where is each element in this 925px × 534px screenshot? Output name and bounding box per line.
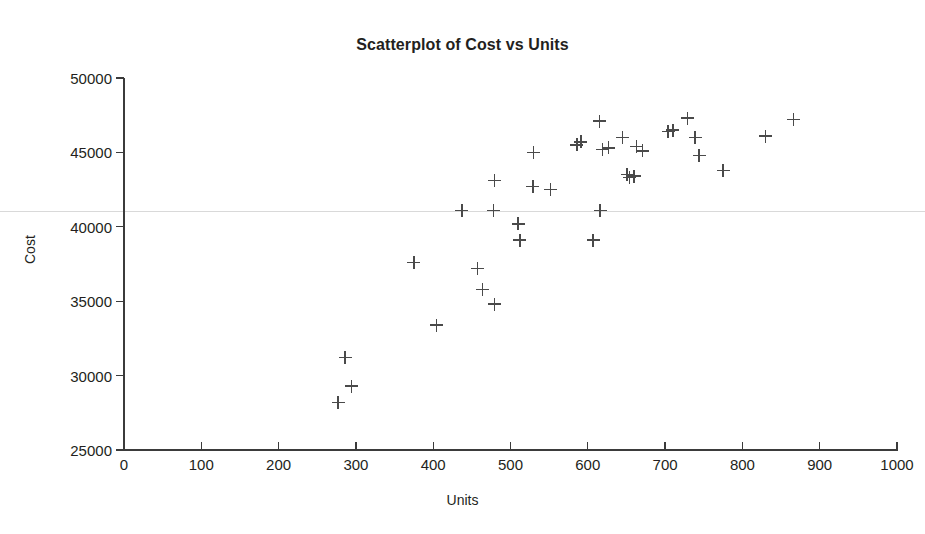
scatter-point <box>512 217 525 230</box>
x-axis-title: Units <box>0 492 925 508</box>
y-axis-tick-label: 50000 <box>38 70 112 87</box>
y-axis-tick-label: 45000 <box>38 144 112 161</box>
x-axis-tick-label: 800 <box>730 456 755 473</box>
y-axis-tick <box>116 375 124 376</box>
scatter-point <box>621 168 634 181</box>
x-axis-tick-label: 1000 <box>880 456 913 473</box>
y-axis-tick <box>116 301 124 302</box>
y-axis-title: Cost <box>22 235 38 264</box>
x-axis-tick-label: 700 <box>653 456 678 473</box>
scatterplot-figure: Scatterplot of Cost vs Units 25000300003… <box>0 0 925 534</box>
x-axis-tick-label: 900 <box>807 456 832 473</box>
scatter-point <box>339 351 352 364</box>
plot-area <box>124 78 897 450</box>
scatter-point <box>681 112 694 125</box>
x-axis-tick-label: 600 <box>575 456 600 473</box>
y-axis-tick-label: 25000 <box>38 442 112 459</box>
x-axis-tick-label: 100 <box>189 456 214 473</box>
scatter-point <box>488 298 501 311</box>
scatter-point <box>693 149 706 162</box>
scatter-point <box>596 143 609 156</box>
scatter-point <box>332 396 345 409</box>
scatter-point <box>476 283 489 296</box>
y-axis-tick-label: 40000 <box>38 218 112 235</box>
x-axis-tick-label: 200 <box>266 456 291 473</box>
scatter-point <box>430 319 443 332</box>
scatter-point <box>594 204 607 217</box>
x-axis-tick-label: 500 <box>498 456 523 473</box>
scatter-point <box>488 174 501 187</box>
scatter-point <box>587 234 600 247</box>
scatter-point <box>526 180 539 193</box>
scatter-point <box>574 135 587 148</box>
x-axis-tick-label: 0 <box>120 456 128 473</box>
page-top-text-sliver <box>0 0 925 12</box>
scatter-point <box>717 164 730 177</box>
scatter-point <box>616 131 629 144</box>
y-axis-tick-label: 30000 <box>38 367 112 384</box>
scatter-point <box>636 144 649 157</box>
y-axis-tick <box>116 152 124 153</box>
chart-title: Scatterplot of Cost vs Units <box>0 36 925 54</box>
scatter-point <box>602 141 615 154</box>
scatter-point <box>487 204 500 217</box>
scatter-point <box>623 171 636 184</box>
scatter-point <box>662 125 675 138</box>
scatter-point <box>471 262 484 275</box>
scatter-point <box>527 146 540 159</box>
scatter-point <box>593 115 606 128</box>
scatter-point <box>628 170 641 183</box>
scatter-point <box>630 140 643 153</box>
scatter-point <box>666 124 679 137</box>
scatter-point <box>544 183 557 196</box>
scatter-point <box>513 234 526 247</box>
scatter-point <box>407 256 420 269</box>
x-axis-tick-label: 300 <box>343 456 368 473</box>
scatter-point <box>759 130 772 143</box>
scatter-point <box>570 138 583 151</box>
y-axis-tick <box>116 226 124 227</box>
y-axis-tick <box>116 77 124 78</box>
scatter-point <box>787 113 800 126</box>
x-axis-tick-label: 400 <box>421 456 446 473</box>
scatter-point <box>345 380 358 393</box>
scatter-point <box>689 131 702 144</box>
y-axis-tick-label: 35000 <box>38 293 112 310</box>
scatter-point <box>455 204 468 217</box>
